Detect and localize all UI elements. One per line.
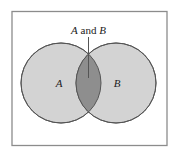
set-b-label: B bbox=[114, 77, 121, 89]
set-a-label: A bbox=[55, 77, 63, 89]
intersection-label-connector: and bbox=[78, 24, 99, 36]
venn-diagram: A and B A B bbox=[0, 0, 177, 155]
intersection-label: A and B bbox=[70, 24, 106, 36]
intersection-label-set2: B bbox=[99, 24, 106, 36]
